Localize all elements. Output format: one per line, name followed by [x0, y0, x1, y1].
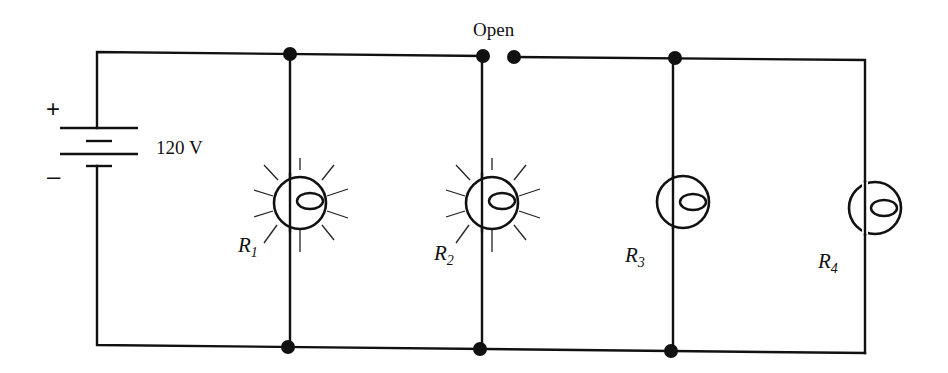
bulb-r2	[446, 158, 540, 252]
label-r3: R3	[624, 243, 645, 270]
parallel-circuit-diagram: + – 120 V Open R1	[0, 0, 948, 373]
node-bottom-r1	[281, 340, 295, 354]
node-bottom-r2	[473, 342, 487, 356]
label-r4: R4	[817, 249, 838, 276]
bulb-r3	[657, 176, 709, 228]
battery-voltage-label: 120 V	[156, 137, 203, 158]
node-top-r1	[283, 47, 297, 61]
switch-terminal-right	[507, 50, 521, 64]
switch-open-label: Open	[473, 19, 515, 40]
bulb-r1	[254, 158, 348, 252]
bulb-r4	[849, 182, 901, 234]
bulb-r1-glass	[274, 177, 326, 229]
node-top-r3	[668, 51, 682, 65]
bulb-r4-glass	[849, 182, 901, 234]
battery-positive-sign: +	[46, 95, 60, 122]
bulb-r2-glass	[466, 177, 518, 229]
node-top-r2	[476, 49, 490, 63]
battery: + – 120 V	[46, 95, 203, 189]
label-r1: R1	[237, 233, 258, 260]
bulb-r3-glass	[657, 176, 709, 228]
battery-negative-sign: –	[47, 162, 61, 189]
node-bottom-r3	[664, 344, 678, 358]
label-r2: R2	[433, 241, 454, 268]
